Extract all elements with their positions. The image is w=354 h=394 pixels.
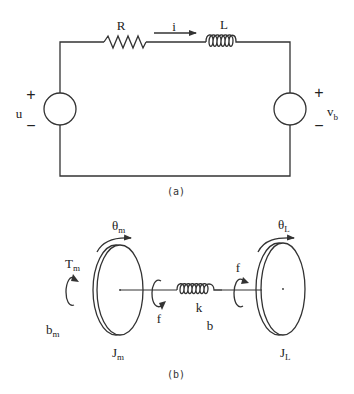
circuit-a (44, 33, 306, 176)
friction-left-label: f (157, 311, 162, 326)
voltage-source-left-icon (44, 93, 76, 125)
torque-curl-head (71, 274, 79, 282)
source-left-label: u (16, 106, 23, 121)
caption-a: (a) (167, 186, 185, 197)
spring-icon (177, 284, 222, 294)
source-right-plus: + (314, 84, 323, 101)
source-left-plus: + (26, 86, 35, 103)
source-left-minus: − (26, 117, 35, 134)
resistor-label: R (117, 18, 126, 33)
friction-right-label: f (236, 260, 241, 275)
diagram-canvas: R L i + u − + vb − (a) θm θL Tm bm Jm JL (0, 0, 354, 394)
source-right-minus: − (314, 117, 323, 134)
inductor-icon (206, 35, 243, 46)
friction-curl-left-head (159, 301, 166, 310)
current-label: i (172, 19, 176, 34)
friction-curl-right-head (241, 277, 249, 284)
shaft-damping-label: b (207, 318, 214, 333)
voltage-source-right-icon (274, 93, 306, 125)
motor-inertia-label: Jm (112, 345, 124, 362)
load-inertia-label: JL (280, 345, 291, 362)
caption-b: (b) (167, 369, 185, 380)
load-center-dot (282, 288, 284, 290)
wire-top-left (60, 42, 104, 93)
torque-curl-icon (66, 277, 76, 305)
source-right-label: vb (327, 104, 339, 122)
motor-angle-label: θm (112, 218, 125, 235)
mechanical-b (66, 238, 305, 335)
resistor-icon (104, 36, 146, 48)
inductor-label: L (220, 17, 228, 32)
load-angle-label: θL (278, 217, 290, 234)
motor-damping-label: bm (46, 322, 60, 339)
wire-bottom (60, 125, 290, 176)
spring-label: k (196, 300, 203, 315)
motor-torque-label: Tm (65, 256, 80, 273)
wire-top-right (243, 42, 290, 93)
